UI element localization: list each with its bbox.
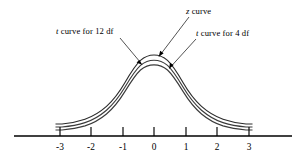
curve-t-12df — [56, 60, 253, 127]
tick-label-pos1: 1 — [184, 142, 189, 152]
curve-group — [56, 55, 253, 130]
leader-line-t12 — [120, 38, 141, 63]
annotation-t4-text: curve for 4 df — [199, 28, 250, 38]
annotation-t-curve-4df: t curve for 4 df — [196, 29, 249, 38]
curves-plot: -3 -2 -1 0 1 2 3 — [0, 0, 304, 156]
t-distribution-figure: -3 -2 -1 0 1 2 3 t curve for 12 df z cur… — [0, 0, 304, 156]
tick-label-pos2: 2 — [215, 142, 220, 152]
annotation-t-curve-12df: t curve for 12 df — [56, 27, 114, 36]
tick-label-zero: 0 — [152, 142, 157, 152]
leader-line-t4 — [171, 39, 196, 67]
tick-label-neg1: -1 — [119, 142, 127, 152]
annotation-t12-text: curve for 12 df — [59, 26, 114, 36]
tick-label-pos3: 3 — [247, 142, 252, 152]
curve-t-4df — [56, 65, 253, 130]
tick-label-neg3: -3 — [56, 142, 64, 152]
leader-line-z — [161, 17, 190, 55]
annotation-z-text: curve — [189, 6, 211, 16]
callout-leaders — [120, 17, 196, 69]
x-axis-tick-labels: -3 -2 -1 0 1 2 3 — [56, 142, 252, 152]
annotation-z-curve: z curve — [186, 7, 211, 16]
x-axis-ticks — [60, 127, 249, 136]
tick-label-neg2: -2 — [87, 142, 95, 152]
